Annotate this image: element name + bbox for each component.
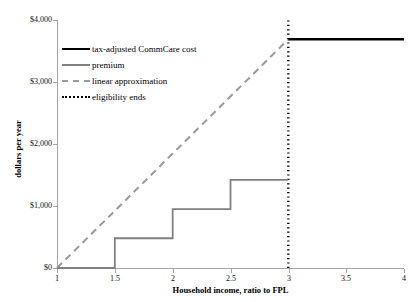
x-tick-mark	[173, 269, 174, 273]
x-tick-label-4: 4	[389, 275, 414, 283]
solid-gray-line-icon	[62, 60, 90, 70]
legend-item-eligibility-ends: eligibility ends	[62, 92, 196, 102]
x-tick-label-2-5: 2.5	[216, 275, 246, 283]
y-tick-mark	[53, 206, 57, 207]
y-tick-mark	[53, 20, 57, 21]
chart-legend: tax-adjusted CommCare cost premium linea…	[62, 44, 196, 102]
x-axis-title: Household income, ratio to FPL	[57, 285, 404, 295]
y-tick-label-0: $0	[44, 264, 52, 272]
x-tick-mark	[404, 269, 405, 273]
legend-label: tax-adjusted CommCare cost	[92, 44, 196, 54]
x-tick-mark	[346, 269, 347, 273]
legend-item-commcare: tax-adjusted CommCare cost	[62, 44, 196, 54]
y-tick-label-2000: $2,000	[30, 140, 52, 148]
x-tick-mark	[289, 269, 290, 273]
solid-black-line-icon	[62, 44, 90, 54]
x-tick-mark	[57, 269, 58, 273]
y-axis-title: dollars per year	[13, 84, 23, 214]
series-premium	[57, 180, 288, 268]
dotted-black-line-icon	[62, 92, 90, 102]
legend-item-linear-approximation: linear approximation	[62, 76, 196, 86]
y-tick-label-4000: $4,000	[30, 16, 52, 24]
y-tick-label-3000: $3,000	[30, 78, 52, 86]
x-tick-label-1-5: 1.5	[100, 275, 130, 283]
x-tick-mark	[115, 269, 116, 273]
y-tick-label-1000: $1,000	[30, 202, 52, 210]
chart-container: $4,000 $3,000 $2,000 $1,000 $0 1 1.5 2 2…	[0, 0, 414, 302]
legend-label: linear approximation	[92, 76, 167, 86]
legend-label: eligibility ends	[92, 92, 146, 102]
dashed-gray-line-icon	[62, 76, 90, 86]
y-tick-mark	[53, 144, 57, 145]
legend-label: premium	[92, 60, 125, 70]
x-tick-label-3-5: 3.5	[331, 275, 361, 283]
y-axis-line	[57, 20, 58, 269]
y-tick-mark	[53, 82, 57, 83]
x-tick-label-1: 1	[42, 275, 72, 283]
x-tick-label-3: 3	[274, 275, 304, 283]
x-tick-mark	[231, 269, 232, 273]
legend-item-premium: premium	[62, 60, 196, 70]
x-tick-label-2: 2	[158, 275, 188, 283]
